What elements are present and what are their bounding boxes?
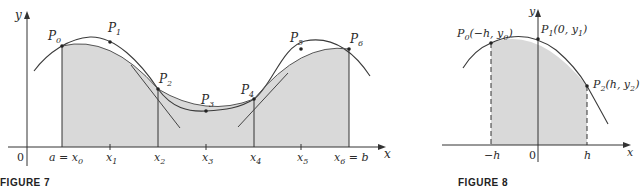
x-axis-label: x: [384, 147, 391, 161]
label-p1: P1(0, y1): [540, 23, 587, 38]
label-p0: P0: [47, 29, 61, 45]
point-p0: [489, 41, 493, 45]
tick-label-x0: a = x0: [49, 151, 83, 166]
y-axis-label: y: [528, 5, 536, 18]
figure-8: P0(−h, y0) P1(0, y1) P2(h, y2) y x 0 −h …: [442, 5, 639, 187]
point-p2: [156, 87, 160, 91]
figure-7: P0 P1 P2 P3 P4 P5 P6 y x 0 a = x0 x1 x2 …: [0, 8, 391, 187]
point-p3: [204, 109, 208, 113]
label-p6: P6: [349, 32, 363, 48]
tick-label-x5: x5: [297, 151, 308, 166]
label-p4: P4: [240, 83, 254, 99]
point-p1: [536, 37, 540, 41]
tick-label-x1: x1: [106, 151, 117, 166]
label-p3: P3: [200, 93, 214, 109]
label-p1: P1: [107, 21, 121, 37]
y-axis-arrow-icon: [24, 11, 30, 19]
tick-label-x2: x2: [154, 151, 165, 166]
y-axis-arrow-icon: [535, 9, 541, 17]
tick-label-x3: x3: [202, 151, 213, 166]
tick-label-x4: x4: [250, 151, 261, 166]
tick-label-neg-h: −h: [484, 149, 500, 162]
tick-label-x6: x6 = b: [334, 151, 369, 166]
point-p6: [347, 47, 351, 51]
point-p2: [585, 84, 589, 88]
label-p5: P5: [289, 31, 303, 47]
y-axis-label: y: [14, 8, 22, 22]
origin-label: 0: [17, 151, 24, 164]
shaded-region: [491, 39, 587, 145]
origin-label: 0: [529, 149, 536, 162]
tick-label-h: h: [584, 149, 591, 162]
figure-8-caption: FIGURE 8: [458, 177, 508, 187]
figures-canvas: P0 P1 P2 P3 P4 P5 P6 y x 0 a = x0 x1 x2 …: [0, 0, 641, 187]
x-axis-label: x: [627, 146, 634, 159]
point-p1: [108, 40, 112, 44]
label-p2: P2(h, y2): [592, 78, 639, 93]
figure-7-caption: FIGURE 7: [0, 177, 50, 187]
label-p0: P0(−h, y0): [456, 27, 513, 42]
point-p5: [299, 47, 303, 51]
label-p2: P2: [158, 72, 172, 88]
